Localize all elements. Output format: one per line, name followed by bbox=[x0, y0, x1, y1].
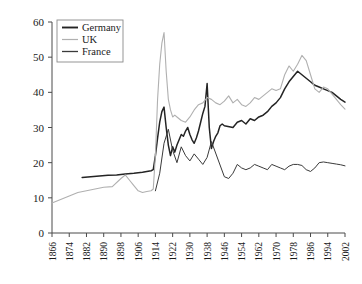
y-tick-label: 60 bbox=[33, 16, 45, 28]
chart-legend: GermanyUKFrance bbox=[57, 20, 123, 62]
x-axis-ticks bbox=[52, 233, 345, 237]
y-tick-label: 0 bbox=[39, 227, 45, 239]
x-tick-label: 1954 bbox=[237, 242, 247, 261]
x-tick-label: 1890 bbox=[99, 242, 109, 261]
legend-label-france: France bbox=[82, 46, 111, 57]
chart-container: 0102030405060 18661874188218901898190619… bbox=[0, 0, 362, 284]
x-tick-label: 1930 bbox=[185, 242, 195, 261]
y-tick-label: 50 bbox=[33, 51, 45, 63]
x-tick-label: 1986 bbox=[306, 242, 316, 261]
x-tick-label: 1882 bbox=[82, 242, 92, 261]
x-tick-label: 1906 bbox=[134, 242, 144, 261]
y-axis-tick-labels: 0102030405060 bbox=[33, 16, 45, 239]
x-tick-label: 1874 bbox=[65, 242, 75, 261]
x-tick-label: 1970 bbox=[272, 242, 282, 261]
x-tick-label: 1914 bbox=[151, 242, 161, 261]
y-tick-label: 30 bbox=[33, 122, 45, 134]
x-tick-label: 1978 bbox=[289, 242, 299, 261]
line-chart: 0102030405060 18661874188218901898190619… bbox=[0, 0, 362, 284]
y-tick-label: 10 bbox=[33, 192, 45, 204]
legend-label-uk: UK bbox=[82, 34, 98, 45]
x-tick-label: 1994 bbox=[323, 242, 333, 261]
x-tick-label: 1922 bbox=[168, 242, 178, 261]
x-tick-label: 1946 bbox=[220, 242, 230, 261]
legend-label-germany: Germany bbox=[82, 22, 122, 33]
x-tick-label: 1962 bbox=[254, 242, 264, 261]
series-line-france bbox=[155, 129, 345, 191]
x-axis-tick-labels: 1866187418821890189819061914192219301938… bbox=[48, 242, 351, 261]
y-tick-label: 40 bbox=[33, 86, 45, 98]
x-tick-label: 2002 bbox=[341, 242, 351, 261]
series-line-germany bbox=[82, 71, 345, 177]
x-tick-label: 1898 bbox=[116, 242, 126, 261]
x-tick-label: 1866 bbox=[48, 242, 58, 261]
y-tick-label: 20 bbox=[33, 157, 45, 169]
y-axis-ticks bbox=[48, 22, 52, 233]
x-tick-label: 1938 bbox=[203, 242, 213, 261]
